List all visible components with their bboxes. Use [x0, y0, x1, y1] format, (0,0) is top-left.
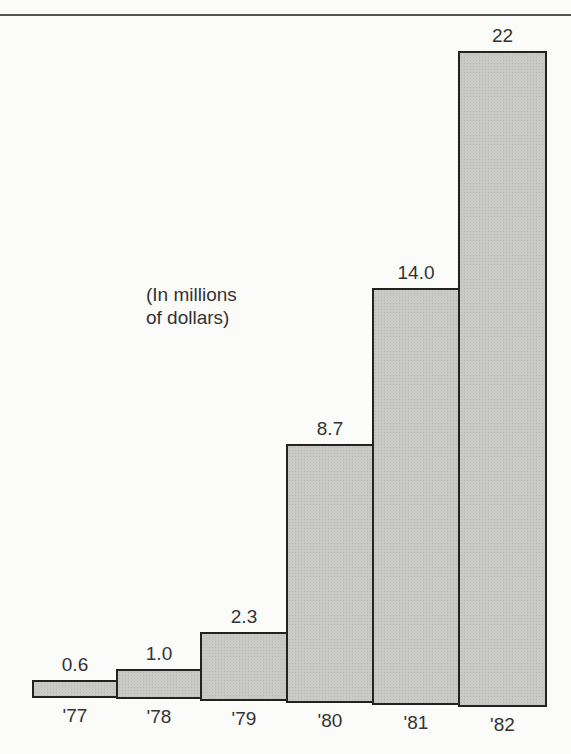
bar-78 — [116, 669, 202, 699]
category-label: '78 — [116, 706, 202, 728]
top-rule — [0, 14, 571, 16]
value-label: 1.0 — [116, 643, 202, 665]
value-label: 14.0 — [372, 262, 460, 284]
bar-77 — [32, 680, 118, 698]
category-label: '80 — [286, 710, 374, 732]
category-label: '81 — [372, 712, 460, 734]
bar-81 — [372, 288, 460, 705]
value-label: 0.6 — [32, 654, 118, 676]
category-label: '82 — [458, 714, 547, 736]
bar-79 — [200, 632, 288, 701]
bar-82 — [458, 51, 547, 707]
category-label: '79 — [200, 708, 288, 730]
value-label: 22 — [458, 25, 547, 47]
value-label: 2.3 — [200, 606, 288, 628]
category-label: '77 — [32, 705, 118, 727]
units-annotation: (In millions of dollars) — [146, 283, 237, 329]
value-label: 8.7 — [286, 418, 374, 440]
bar-80 — [286, 444, 374, 703]
